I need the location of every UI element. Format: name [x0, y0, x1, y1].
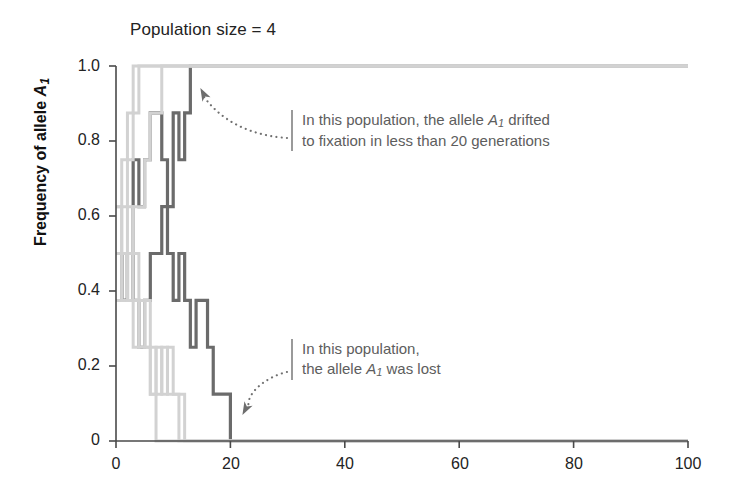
annotation-fixation-line1-post: drifted — [504, 111, 550, 128]
annotation-lost-arrow-head — [238, 401, 252, 417]
annotation-arrows — [196, 86, 287, 417]
trace-population-light-6 — [116, 207, 688, 441]
annotation-fixation-line2: to fixation in less than 20 generations — [302, 131, 550, 151]
annotation-fixation-line1: In this population, the allele A1 drifte… — [302, 110, 550, 131]
trace-population-fixed-dark — [116, 66, 688, 300]
annotation-lost: In this population, the allele A1 was lo… — [291, 339, 441, 380]
annotation-lost-line1: In this population, — [302, 339, 441, 359]
annotation-lost-arrow-line — [248, 372, 287, 405]
trace-population-light-3 — [116, 66, 688, 300]
annotation-fixation-arrow-head — [196, 86, 210, 102]
annotation-fixation: In this population, the allele A1 drifte… — [291, 110, 550, 151]
trace-population-light-5 — [116, 207, 688, 441]
annotation-fixation-allele: A — [488, 111, 498, 128]
annotation-lost-line2-pre: the allele — [302, 360, 366, 377]
genetic-drift-figure: Population size = 4 Frequency of allele … — [0, 0, 741, 499]
annotation-fixation-arrow-line — [203, 96, 287, 138]
plot-area — [0, 0, 741, 499]
annotation-lost-allele: A — [366, 360, 376, 377]
annotation-fixation-line1-pre: In this population, the allele — [302, 111, 488, 128]
annotation-lost-line2-post: was lost — [382, 360, 440, 377]
annotation-lost-line2: the allele A1 was lost — [302, 359, 441, 380]
trace-population-lost-dark — [116, 207, 688, 441]
